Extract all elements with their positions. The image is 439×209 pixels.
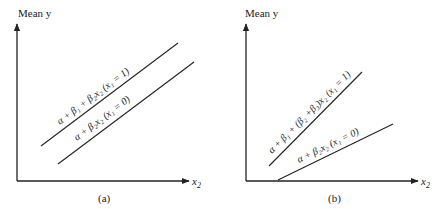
line-upper [41, 43, 178, 146]
y-axis-label: Mean y [245, 7, 279, 19]
figure: Mean y x2 (a) α + β₁ + β₂x₂ (x₁ = 1) α +… [0, 0, 439, 209]
panel-a: Mean y x2 (a) α + β₁ + β₂x₂ (x₁ = 1) α +… [17, 7, 201, 205]
x-axis-label: x2 [191, 175, 201, 190]
y-axis-label: Mean y [18, 7, 52, 19]
caption: (a) [98, 192, 111, 205]
caption: (b) [328, 192, 341, 205]
panel-b: Mean y x2 (b) α + β₁ + (β₂ +β₃)x₂ (x₁ = … [245, 7, 430, 205]
x-axis-label: x2 [420, 175, 430, 190]
line-lower-label: α + β₂x₂ (x₁ = 0) [295, 125, 361, 166]
